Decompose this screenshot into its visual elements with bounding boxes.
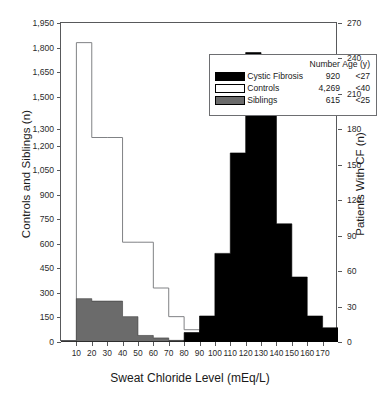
x-axis-tick [261,342,262,346]
y-axis-right-tick-label: 180 [347,124,361,134]
legend-number-controls: 4,269 [307,82,340,94]
x-axis-tick [323,342,324,346]
plot-area: Number Age (y) Cystic Fibrosis 920 <27 C… [60,22,337,341]
x-axis-tick [76,342,77,346]
y-axis-left-tick-label: 900 [8,190,54,200]
y-axis-left-tick [57,293,61,294]
y-axis-right-tick [338,236,342,237]
y-axis-left-tick-label: 300 [8,288,54,298]
sweat-chloride-histogram-figure: Controls and Siblings (n) Patients With … [0,0,380,395]
legend-swatch-controls [215,84,245,93]
y-axis-left-tick-label: 1,300 [8,124,54,134]
y-axis-left-tick-label: 1,950 [8,18,54,28]
y-axis-right-tick-label: 60 [347,266,357,276]
y-axis-right-tick [338,342,342,343]
y-axis-left-tick [57,146,61,147]
y-axis-left-tick [57,244,61,245]
y-axis-left-tick [57,97,61,98]
y-axis-left-tick-label: 1,200 [8,141,54,151]
legend-number-siblings: 615 [307,95,340,107]
y-axis-left-tick-label: 750 [8,214,54,224]
y-axis-right-tick [338,129,342,130]
x-axis-tick [92,342,93,346]
x-axis-tick [107,342,108,346]
y-axis-right-tick [338,58,342,59]
x-axis-tick [169,342,170,346]
y-axis-left-tick-label: 1,050 [8,165,54,175]
y-axis-right-tick [338,23,342,24]
legend-header-number: Number [307,58,340,70]
y-axis-right-tick [338,165,342,166]
x-axis-tick [307,342,308,346]
x-axis-tick [246,342,247,346]
y-axis-right-tick-label: 90 [347,231,357,241]
y-axis-left-tick-label: 1,500 [8,92,54,102]
y-axis-left-tick-label: 1,800 [8,43,54,53]
y-axis-left-tick-label: 450 [8,263,54,273]
y-axis-right-tick [338,94,342,95]
y-axis-left-tick-label: 1,650 [8,67,54,77]
legend-label-cystic-fibrosis: Cystic Fibrosis [247,70,307,82]
y-axis-right-title: Patients With CF (n) [354,89,366,279]
y-axis-left-tick-label: 0 [8,337,54,347]
legend-swatch-siblings [215,96,245,105]
y-axis-right-tick-label: 30 [347,302,357,312]
x-axis-tick [215,342,216,346]
y-axis-left-tick [57,129,61,130]
y-axis-right-tick-label: 120 [347,195,361,205]
x-axis-tick [153,342,154,346]
x-axis-tick [230,342,231,346]
y-axis-right-tick [338,200,342,201]
x-axis-title: Sweat Chloride Level (mEq/L) [0,371,380,385]
y-axis-right-tick [338,271,342,272]
y-axis-right-tick-label: 240 [347,53,361,63]
y-axis-left-tick [57,219,61,220]
y-axis-right-tick-label: 0 [347,337,352,347]
y-axis-left-tick-label: 600 [8,239,54,249]
y-axis-right-tick-label: 150 [347,160,361,170]
legend-label-siblings: Siblings [247,95,307,107]
x-axis-tick-label: 170 [311,348,335,358]
y-axis-left-tick [57,317,61,318]
y-axis-left-tick [57,23,61,24]
y-axis-right-tick-label: 210 [347,89,361,99]
x-axis-tick [276,342,277,346]
y-axis-left-tick [57,268,61,269]
y-axis-left-tick [57,170,61,171]
y-axis-left-tick [57,72,61,73]
y-axis-right-tick-label: 270 [347,18,361,28]
y-axis-left-tick [57,48,61,49]
x-axis-tick [200,342,201,346]
x-axis-tick [123,342,124,346]
y-axis-left-tick [57,342,61,343]
y-axis-left-tick-label: 150 [8,312,54,322]
x-axis-tick [292,342,293,346]
x-axis-tick [138,342,139,346]
y-axis-left-tick [57,195,61,196]
legend-number-cystic-fibrosis: 920 [307,70,340,82]
legend-age-cystic-fibrosis: <27 [340,70,370,82]
legend-swatch-cystic-fibrosis [215,72,245,81]
x-axis-tick [184,342,185,346]
y-axis-right-tick [338,307,342,308]
legend-row-cystic-fibrosis: Cystic Fibrosis 920 <27 [215,70,370,82]
legend-label-controls: Controls [247,82,307,94]
